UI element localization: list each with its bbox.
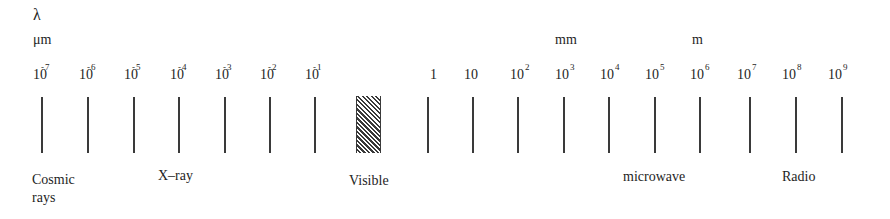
region-label-line: Visible bbox=[349, 172, 389, 190]
tick-mark bbox=[699, 97, 701, 153]
tick-mark bbox=[608, 97, 610, 153]
tick-label: 10-5 bbox=[124, 68, 142, 83]
tick-exponent: -4 bbox=[178, 62, 188, 72]
tick-base: 10 bbox=[555, 67, 569, 82]
tick-exponent: 4 bbox=[615, 62, 620, 72]
visible-band bbox=[356, 96, 381, 153]
tick-exponent: -2 bbox=[268, 62, 278, 72]
tick-label: 10-1 bbox=[305, 68, 323, 83]
region-label-line: microwave bbox=[623, 168, 685, 186]
tick-mark bbox=[517, 97, 519, 153]
tick-label: 10 bbox=[464, 68, 478, 82]
tick-label: 10-2 bbox=[260, 68, 278, 83]
tick-label: 109 bbox=[828, 68, 848, 83]
tick-mark bbox=[41, 97, 43, 153]
tick-exponent: -6 bbox=[87, 62, 97, 72]
tick-label: 105 bbox=[645, 68, 665, 83]
tick-label: 10-4 bbox=[170, 68, 188, 83]
region-label-line: X–ray bbox=[158, 167, 193, 185]
region-label: Radio bbox=[782, 168, 815, 186]
tick-label: 107 bbox=[737, 68, 757, 83]
tick-mark bbox=[314, 97, 316, 153]
tick-exponent: 3 bbox=[570, 62, 575, 72]
tick-base: 10 bbox=[510, 67, 524, 82]
tick-label: 104 bbox=[600, 68, 620, 83]
tick-exponent: 2 bbox=[525, 62, 530, 72]
tick-exponent: -5 bbox=[132, 62, 142, 72]
tick-mark bbox=[563, 97, 565, 153]
tick-base: 10 bbox=[600, 67, 614, 82]
unit-label: m bbox=[692, 33, 703, 47]
tick-label: 103 bbox=[555, 68, 575, 83]
tick-mark bbox=[269, 97, 271, 153]
tick-base: 10 bbox=[464, 67, 478, 82]
region-label-line: rays bbox=[32, 189, 75, 207]
region-label: Visible bbox=[349, 172, 389, 190]
tick-exponent: 5 bbox=[660, 62, 665, 72]
tick-label: 10-6 bbox=[79, 68, 97, 83]
region-label: Cosmicrays bbox=[32, 171, 75, 207]
tick-exponent: 6 bbox=[705, 62, 710, 72]
tick-label: 10-3 bbox=[215, 68, 233, 83]
wavelength-symbol: λ bbox=[33, 7, 41, 23]
tick-label: 1 bbox=[430, 68, 437, 82]
tick-exponent: 9 bbox=[843, 62, 848, 72]
tick-base: 10 bbox=[782, 67, 796, 82]
unit-label: μm bbox=[33, 33, 51, 47]
region-label: microwave bbox=[623, 168, 685, 186]
tick-exponent: -7 bbox=[41, 62, 51, 72]
tick-exponent: -3 bbox=[223, 62, 233, 72]
tick-base: 1 bbox=[430, 67, 437, 82]
tick-mark bbox=[427, 97, 429, 153]
tick-mark bbox=[133, 97, 135, 153]
tick-mark bbox=[224, 97, 226, 153]
tick-mark bbox=[654, 97, 656, 153]
tick-base: 10 bbox=[645, 67, 659, 82]
tick-base: 10 bbox=[690, 67, 704, 82]
tick-mark bbox=[87, 97, 89, 153]
tick-label: 106 bbox=[690, 68, 710, 83]
region-label-line: Radio bbox=[782, 168, 815, 186]
tick-exponent: 8 bbox=[797, 62, 802, 72]
tick-label: 102 bbox=[510, 68, 530, 83]
region-label: X–ray bbox=[158, 167, 193, 185]
tick-exponent: 7 bbox=[752, 62, 757, 72]
tick-mark bbox=[841, 97, 843, 153]
tick-mark bbox=[749, 97, 751, 153]
tick-label: 108 bbox=[782, 68, 802, 83]
unit-label: mm bbox=[555, 33, 577, 47]
tick-base: 10 bbox=[737, 67, 751, 82]
tick-mark bbox=[472, 97, 474, 153]
tick-mark bbox=[795, 97, 797, 153]
tick-base: 10 bbox=[828, 67, 842, 82]
tick-label: 10-7 bbox=[33, 68, 51, 83]
tick-exponent: -1 bbox=[313, 62, 323, 72]
tick-mark bbox=[178, 97, 180, 153]
region-label-line: Cosmic bbox=[32, 171, 75, 189]
